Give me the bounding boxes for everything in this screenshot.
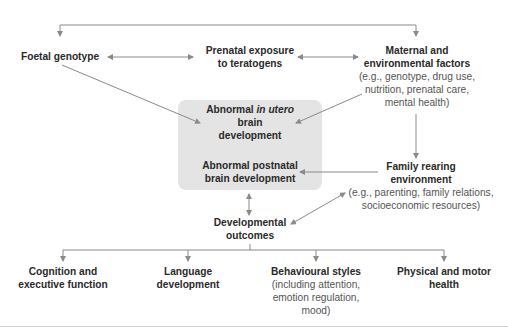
node-family-rearing: Family rearing environment (e.g., parent…	[343, 160, 499, 212]
outcome-physical: Physical and motor health	[388, 265, 500, 291]
outcome-language: Language development	[143, 265, 233, 291]
family-title-1: Family rearing	[343, 160, 499, 173]
family-title-2: environment	[343, 173, 499, 186]
postnatal-title-2: brain development	[190, 172, 310, 185]
dev-outcomes-title-1: Developmental	[200, 216, 300, 229]
maternal-title-2: environmental factors	[356, 57, 478, 70]
bottom-divider	[0, 326, 508, 327]
dev-outcomes-title-2: outcomes	[200, 229, 300, 242]
family-sub-2: socioeconomic resources)	[343, 199, 499, 212]
outcome-behavioural: Behavioural styles (including attention,…	[261, 265, 371, 317]
language-title-1: Language	[143, 265, 233, 278]
maternal-sub-1: (e.g., genotype, drug use,	[356, 70, 478, 83]
cognition-title-2: executive function	[10, 278, 116, 291]
maternal-title-1: Maternal and	[356, 44, 478, 57]
maternal-sub-3: mental health)	[356, 96, 478, 109]
family-sub-1: (e.g., parenting, family relations,	[343, 186, 499, 199]
node-prenatal-exposure: Prenatal exposure to teratogens	[195, 44, 305, 70]
node-foetal-genotype: Foetal genotype	[18, 50, 102, 63]
top-bracket-line	[60, 25, 416, 36]
node-in-utero: Abnormal in utero brain development	[190, 103, 310, 142]
behavioural-sub-3: mood)	[261, 304, 371, 317]
node-postnatal: Abnormal postnatal brain development	[190, 159, 310, 185]
foetal-genotype-title: Foetal genotype	[18, 50, 102, 63]
postnatal-title-1: Abnormal postnatal	[190, 159, 310, 172]
physical-title-2: health	[388, 278, 500, 291]
node-maternal-factors: Maternal and environmental factors (e.g.…	[356, 44, 478, 109]
physical-title-1: Physical and motor	[388, 265, 500, 278]
prenatal-exposure-title-1: Prenatal exposure	[195, 44, 305, 57]
diagram-canvas: Foetal genotype Prenatal exposure to ter…	[0, 0, 508, 334]
behavioural-title-1: Behavioural styles	[261, 265, 371, 278]
node-developmental-outcomes: Developmental outcomes	[200, 216, 300, 242]
maternal-sub-2: nutrition, prenatal care,	[356, 83, 478, 96]
outcome-cognition: Cognition and executive function	[10, 265, 116, 291]
in-utero-title-italic: in utero	[257, 104, 294, 115]
prenatal-exposure-title-2: to teratogens	[195, 57, 305, 70]
in-utero-title-3: development	[190, 129, 310, 142]
behavioural-sub-2: emotion regulation,	[261, 291, 371, 304]
behavioural-sub-1: (including attention,	[261, 278, 371, 291]
cognition-title-1: Cognition and	[10, 265, 116, 278]
in-utero-title-2: brain	[190, 116, 310, 129]
in-utero-title-pre: Abnormal	[206, 104, 256, 115]
language-title-2: development	[143, 278, 233, 291]
in-utero-title-1: Abnormal in utero	[190, 103, 310, 116]
